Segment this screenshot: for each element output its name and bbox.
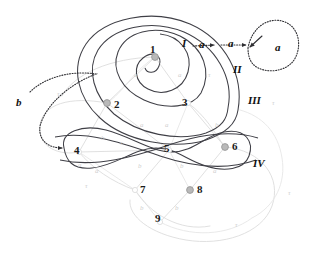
edge-label-e12: τ	[85, 183, 88, 190]
arrow-label-a3: a	[275, 42, 281, 53]
node-label-9: 9	[155, 213, 161, 224]
region-label-II: II	[233, 64, 242, 75]
arrow-label-a1: a	[199, 39, 205, 50]
arrow-label-b1: b	[16, 97, 22, 108]
edge-label-e9: τ	[120, 140, 123, 147]
node-label-1: 1	[150, 44, 156, 55]
edge-label-e14: b	[180, 163, 184, 170]
graph-edge	[79, 150, 169, 152]
node-label-7: 7	[140, 184, 146, 195]
edge-label-e17: b	[175, 205, 179, 212]
edge-label-e4: τ	[57, 91, 60, 98]
region-label-IV: IV	[253, 158, 265, 169]
region-label-I: I	[182, 38, 186, 49]
region-label-III: III	[248, 95, 261, 106]
node-label-8: 8	[197, 184, 203, 195]
edge-label-e8: b	[101, 135, 105, 142]
edge-label-e10: a	[78, 162, 82, 169]
graph-node-2	[104, 100, 111, 107]
edge-label-e20: τ	[272, 100, 275, 107]
arrow-label-a2: a	[228, 38, 234, 49]
node-label-4: 4	[74, 145, 80, 156]
edge-label-e2: a	[178, 72, 182, 79]
graph-edge	[169, 103, 188, 150]
graph-edge	[169, 150, 190, 190]
dotted-loop-a	[248, 20, 299, 71]
edge-label-e19: τ	[288, 190, 291, 197]
graph-node-6	[222, 144, 229, 151]
edge-label-e16: b	[140, 205, 144, 212]
node-label-2: 2	[114, 99, 120, 110]
edge-label-e13: b	[138, 163, 142, 170]
jordan-curve-I	[116, 30, 206, 106]
dotted-arrow-b	[30, 73, 96, 148]
edge-label-e6: a	[165, 122, 169, 129]
figure-canvas	[0, 0, 310, 268]
graph-edge	[62, 57, 155, 96]
graph-node-7	[132, 187, 137, 192]
edge-label-e1: a	[134, 72, 138, 79]
edge-label-e7: b	[215, 122, 219, 129]
node-label-5: 5	[164, 143, 170, 154]
jordan-curve-II	[92, 26, 229, 137]
edge-label-e11: a	[95, 168, 99, 175]
edge-label-e15: a	[213, 168, 217, 175]
node-label-3: 3	[182, 97, 188, 108]
graph-edge	[160, 218, 252, 233]
edge-label-e3: τ	[208, 72, 211, 79]
edge-label-e5: a	[140, 122, 144, 129]
edge-label-e18: τ	[235, 222, 238, 229]
graph-edge	[107, 57, 155, 103]
figure-container: 123456789 IIIIIIIV aaab aaττaabbτaaτbbab…	[0, 0, 310, 268]
graph-node-8	[187, 187, 194, 194]
node-label-6: 6	[232, 141, 238, 152]
